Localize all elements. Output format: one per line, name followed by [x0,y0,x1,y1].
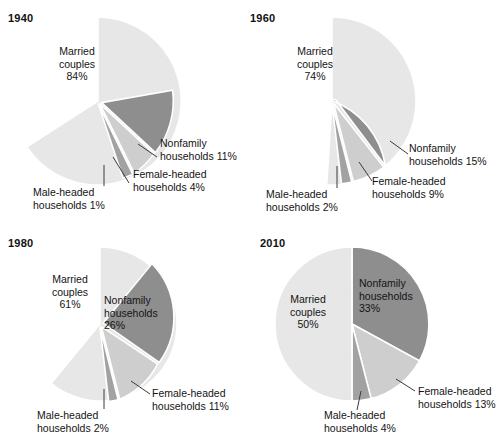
label-female-headed-line2-1940: households 4% [133,181,207,194]
label-married-line1-1980: Married [18,273,122,286]
label-nonfamily-line1-2010: Nonfamily [359,277,413,290]
label-male-headed-line2-1980: households 2% [37,422,109,435]
label-nonfamily-line1-1940: Nonfamily [160,137,237,150]
label-female-headed-line2-1980: households 11% [152,400,229,413]
label-female-headed-line1-1960: Female-headed [372,175,446,188]
label-nonfamily-1960: Nonfamily households 15% [409,142,487,167]
label-female-headed-1960: Female-headed households 9% [372,175,446,200]
label-married-line3-1940: 84% [22,70,132,83]
label-nonfamily-1980: Nonfamily households 26% [104,294,158,332]
label-male-headed-line1-1980: Male-headed [37,409,109,422]
label-female-headed-1980: Female-headed households 11% [152,387,229,412]
label-female-headed-2010: Female-headed households 13% [418,385,496,410]
label-female-headed-line2-1960: households 9% [372,188,446,201]
label-female-headed-line1-1940: Female-headed [133,168,207,181]
label-married-line2-1960: couples [260,58,370,71]
label-nonfamily-line3-2010: 33% [359,302,413,315]
label-male-headed-line2-1940: households 1% [33,199,105,212]
label-married-1960: Married couples 74% [260,45,370,83]
panel-2010: 2010 Married couples 50% Nonfamily house… [242,211,484,432]
label-married-line3-1960: 74% [260,70,370,83]
label-female-headed-1940: Female-headed households 4% [133,168,207,193]
label-male-headed-line1-2010: Male-headed [324,409,396,422]
label-male-headed-1980: Male-headed households 2% [37,409,109,434]
label-male-headed-1960: Male-headed households 2% [266,188,338,213]
label-married-line3-2010: 50% [264,318,352,331]
label-nonfamily-2010: Nonfamily households 33% [359,277,413,315]
panel-1940: 1940 Married couples 84% Nonfamily house… [0,0,242,221]
panel-1960: 1960 Married couples 74% Nonfamily house… [242,0,484,221]
label-married-line1-1940: Married [22,45,132,58]
label-nonfamily-line2-1940: households 11% [160,150,237,163]
label-female-headed-line1-1980: Female-headed [152,387,229,400]
label-male-headed-line1-1960: Male-headed [266,188,338,201]
label-female-headed-line1-2010: Female-headed [418,385,496,398]
label-male-headed-1940: Male-headed households 1% [33,186,105,211]
label-married-line1-2010: Married [264,293,352,306]
label-married-2010: Married couples 50% [264,293,352,331]
label-nonfamily-line1-1980: Nonfamily [104,294,158,307]
label-married-line2-1940: couples [22,58,132,71]
label-nonfamily-line2-1980: households [104,307,158,320]
label-male-headed-line2-2010: households 4% [324,422,396,435]
label-married-line2-2010: couples [264,306,352,319]
panel-1980: 1980 Married couples 61% Nonfamily house… [0,211,242,432]
label-female-headed-line2-2010: households 13% [418,398,496,411]
label-nonfamily-line2-1960: households 15% [409,155,487,168]
label-married-line1-1960: Married [260,45,370,58]
label-nonfamily-line2-2010: households [359,290,413,303]
label-nonfamily-line1-1960: Nonfamily [409,142,487,155]
label-male-headed-2010: Male-headed households 4% [324,409,396,434]
label-male-headed-line1-1940: Male-headed [33,186,105,199]
label-nonfamily-1940: Nonfamily households 11% [160,137,237,162]
label-married-1940: Married couples 84% [22,45,132,83]
label-nonfamily-line3-1980: 26% [104,319,158,332]
